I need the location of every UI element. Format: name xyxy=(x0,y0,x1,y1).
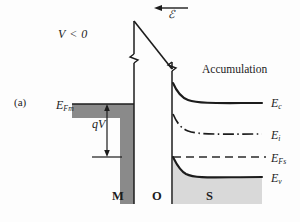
intrinsic-level-label: Ei xyxy=(271,129,281,141)
valence-band-curve xyxy=(173,157,262,177)
bias-symbol: V xyxy=(58,27,66,41)
conduction-band-label-sub: c xyxy=(278,102,282,111)
potential-drop-label: qV xyxy=(92,118,105,130)
qv-arrow-head-bottom xyxy=(104,150,110,157)
conduction-band-label: Ec xyxy=(271,97,282,109)
valence-band-label: Ev xyxy=(271,172,282,184)
break-mark-metal-oxide xyxy=(130,54,138,63)
panel-letter: (a) xyxy=(14,97,26,108)
bias-relation: < 0 xyxy=(69,27,88,41)
metal-fermi-label-sub: Fm xyxy=(63,104,74,113)
interface-lines xyxy=(130,21,176,204)
valence-sea-fill xyxy=(173,157,262,204)
oxide-barrier xyxy=(134,21,172,69)
region-label-semiconductor: S xyxy=(206,190,213,203)
field-arrow-head xyxy=(154,5,162,11)
conduction-band-curve xyxy=(173,83,262,103)
accumulation-regime-label: Accumulation xyxy=(202,64,267,76)
region-label-oxide: O xyxy=(152,190,162,203)
band-diagram-canvas xyxy=(0,0,300,222)
region-label-metal: M xyxy=(112,190,124,203)
semiconductor-bands xyxy=(173,83,266,177)
semiconductor-region xyxy=(173,157,262,204)
band-diagram-figure: (a) V < 0 EFm qV ℰ Accumulation Ec Ei EF… xyxy=(0,0,300,222)
intrinsic-level-curve xyxy=(173,114,262,134)
metal-fermi-label: EFm xyxy=(56,99,74,111)
intrinsic-level-label-sub: i xyxy=(278,134,280,143)
oxide-conduction-band-slope xyxy=(134,21,172,69)
semiconductor-fermi-label-sub: Fs xyxy=(278,157,286,166)
bias-condition-label: V < 0 xyxy=(58,28,88,40)
semiconductor-fermi-label: EFs xyxy=(271,152,286,164)
electric-field-label: ℰ xyxy=(168,9,175,20)
valence-band-label-sub: v xyxy=(278,177,282,186)
potential-drop-v: V xyxy=(98,117,105,131)
